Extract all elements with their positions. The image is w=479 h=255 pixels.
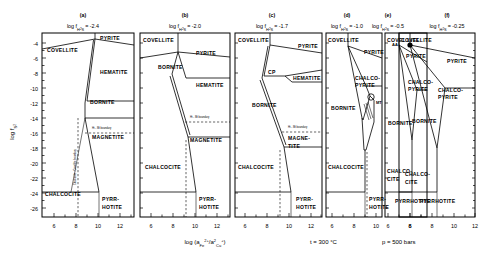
field-label-chalcopyrite-l2: PYRITE — [355, 82, 375, 88]
field-label-covellite: COVELLITE — [238, 37, 269, 43]
field-label-magnetite-l1: MAGNE- — [288, 135, 310, 141]
field-label-hematite: HEMATITE — [196, 82, 224, 88]
field-label-hematite: HEMATITE — [100, 69, 128, 75]
ytick-label: -22 — [30, 176, 38, 182]
boundary-annotation: Ht - Mt boundary — [92, 126, 112, 130]
xtick-label: 10 — [95, 223, 101, 229]
xtick-label: 6 — [53, 223, 56, 229]
xtick-label: 6 — [409, 223, 412, 229]
boundary-annotation: Ht - Mt boundary — [288, 125, 308, 129]
xtick-label: 12 — [117, 223, 123, 229]
field-label-chalcopyrite-l1: CHALCO- — [438, 87, 463, 93]
field-label-chalcopyrite-l1: CHALCO- — [355, 75, 380, 81]
panel-tag: (c) — [269, 12, 276, 18]
xtick-label: 6 — [331, 223, 334, 229]
ytick-label: -14 — [30, 116, 38, 122]
xtick-label: 6 — [150, 223, 153, 229]
field-label-chalcocite-l1: CHALCO- — [405, 171, 430, 177]
panel-title: log fH2S= -1.7 — [256, 23, 288, 32]
svg-text:log fS2: log fS2 — [9, 124, 18, 140]
condition-temperature: t = 300 °C — [310, 239, 338, 245]
field-label-pyrrhotite-l1: PYRR- — [369, 196, 386, 202]
field-label-pyrite: PYRITE — [364, 49, 384, 55]
field-label-mt: MT — [376, 100, 382, 105]
boundary-annotation-vertical: Chalcocite - Covellite boundary — [73, 148, 77, 185]
x-axis-title: log (aFe2+/a2Cu+) — [185, 238, 226, 248]
panel-frame — [140, 33, 230, 217]
field-label-chalcocite: CHALCOCITE — [145, 164, 181, 170]
panel-title: log fH2S= -0.25 — [429, 23, 464, 32]
panel-tag: (a) — [80, 12, 87, 18]
field-label-pyrrhotite-l2: HOTITE — [296, 204, 317, 210]
ytick-label: -20 — [30, 161, 38, 167]
xtick-label: 10 — [373, 223, 379, 229]
field-label-covellite: COVELLITE — [143, 37, 174, 43]
phase-boundaries — [140, 33, 230, 217]
xtick-label: 8 — [172, 223, 175, 229]
field-label-pyrrhotite-l2: HOTITE — [199, 204, 220, 210]
figure-phase-diagrams: -4 -6 -8 -10 -12 -14 -16 -18 -20 -22 -24… — [0, 0, 479, 255]
field-label-bornite: BORNITE — [158, 64, 183, 70]
field-label-magnetite: MAGNETITE — [92, 134, 125, 140]
field-label-covellite: COVELLITE — [328, 37, 359, 43]
ytick-label: -8 — [33, 71, 38, 77]
svg-text:Chalcocite - Covellite boundar: Chalcocite - Covellite boundary — [73, 148, 77, 185]
panel-tag: (f) — [444, 12, 449, 18]
field-label-pyrite: PYRITE — [406, 53, 426, 59]
field-label-covellite: COVELLITE — [47, 47, 78, 53]
field-label-bornite: BORNITE — [252, 102, 277, 108]
field-label-pyrrhotite-l2: HOTITE — [102, 204, 123, 210]
xtick-label: 12 — [308, 223, 314, 229]
phase-boundaries — [235, 33, 322, 217]
xtick-label: 6 — [387, 223, 390, 229]
xtick-label: 12 — [214, 223, 220, 229]
ytick-label: -26 — [30, 206, 38, 212]
phase-boundaries — [42, 33, 134, 217]
field-label-pyrrhotite-l1: PYRR- — [102, 196, 119, 202]
ytick-label: -24 — [30, 191, 38, 197]
svg-text:log (aFe2+/a2Cu+): log (aFe2+/a2Cu+) — [185, 238, 226, 248]
field-label-bornite: BORNITE — [388, 120, 413, 126]
field-label-magnetite: MAGNETITE — [190, 137, 223, 143]
field-label-pyrrhotite: PYRRHOTITE — [420, 198, 456, 204]
field-label-chalcocite: CHALCOCITE — [45, 191, 81, 197]
boundary-annotation: Ht - Mt boundary — [190, 115, 210, 119]
xtick-label: 10 — [192, 223, 198, 229]
panel-tag: (e) — [385, 12, 392, 18]
ytick-label: -6 — [33, 56, 38, 62]
y-axis-title-text: log f — [9, 128, 15, 140]
xtick-label: 8 — [266, 223, 269, 229]
field-label-hematite: HEMATITE — [293, 75, 321, 81]
panel-title: log fH2S= -2.0 — [169, 23, 201, 32]
field-label-cp: CP — [268, 69, 276, 75]
panel-b: (b) log fH2S= -2.0 6 8 10 12 — [140, 12, 230, 229]
ytick-label: -10 — [30, 86, 38, 92]
field-label-pyrrhotite-l1: PYRR- — [296, 196, 313, 202]
field-label-chalcocite: CHALCOCITE — [328, 164, 364, 170]
field-label-pyrrhotite-l2: HOTITE — [369, 204, 390, 210]
panel-tag: (d) — [344, 12, 351, 18]
field-label-covellite: COVELLITE — [401, 37, 432, 43]
aa-marker — [407, 42, 412, 47]
field-label-magnetite-l2: TITE — [288, 143, 300, 149]
xtick-label: 8 — [431, 223, 434, 229]
ytick-label: -4 — [33, 41, 38, 47]
panel-frame — [326, 33, 382, 217]
xtick-label: 8 — [75, 223, 78, 229]
field-label-pyrite: PYRITE — [100, 35, 120, 41]
panel-title: log fH2S= -2.4 — [67, 23, 99, 32]
field-label-pyrite: PYRITE — [298, 43, 318, 49]
field-label-chalcopyrite-l2: PYRITE — [408, 86, 428, 92]
ytick-label: -12 — [30, 101, 38, 107]
panel-frame — [42, 33, 134, 217]
annotation-aa: AA — [392, 42, 398, 47]
field-label-pyrite: PYRITE — [447, 58, 467, 64]
field-label-bornite: BORNITE — [90, 99, 115, 105]
panel-d: (d) log fH2S= -1.0 6 8 10 — [326, 12, 390, 229]
xtick-label: 8 — [353, 223, 356, 229]
condition-pressure: p = 500 bars — [382, 239, 416, 245]
field-label-bornite: BORNITE — [412, 118, 437, 124]
conditions: t = 300 °C p = 500 bars — [310, 239, 416, 245]
ytick-label: -16 — [30, 131, 38, 137]
xtick-label: 10 — [451, 223, 457, 229]
